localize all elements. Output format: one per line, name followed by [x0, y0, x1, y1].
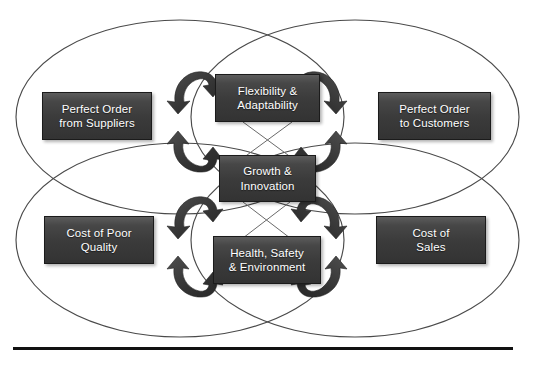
- diagram-canvas: Perfect Order from Suppliers Flexibility…: [0, 0, 535, 365]
- node-flexibility-adaptability[interactable]: Flexibility & Adaptability: [215, 74, 320, 122]
- node-label: Flexibility & Adaptability: [233, 84, 302, 112]
- node-label: Cost of Sales: [408, 226, 453, 254]
- node-label: Health, Safety & Environment: [225, 246, 310, 274]
- node-cost-of-poor-quality[interactable]: Cost of Poor Quality: [44, 216, 154, 264]
- node-label: Perfect Order to Customers: [395, 102, 473, 130]
- node-perfect-order-from-suppliers[interactable]: Perfect Order from Suppliers: [42, 92, 152, 140]
- arrow-bottom-right-upper: [291, 197, 347, 239]
- node-label: Perfect Order from Suppliers: [55, 102, 139, 130]
- node-health-safety-environment[interactable]: Health, Safety & Environment: [213, 236, 321, 284]
- node-perfect-order-to-customers[interactable]: Perfect Order to Customers: [378, 92, 491, 140]
- node-label: Growth & Innovation: [236, 164, 298, 192]
- node-label: Cost of Poor Quality: [62, 226, 135, 254]
- bottom-divider-rule: [13, 347, 513, 350]
- node-cost-of-sales[interactable]: Cost of Sales: [376, 216, 486, 264]
- node-growth-innovation[interactable]: Growth & Innovation: [219, 155, 316, 202]
